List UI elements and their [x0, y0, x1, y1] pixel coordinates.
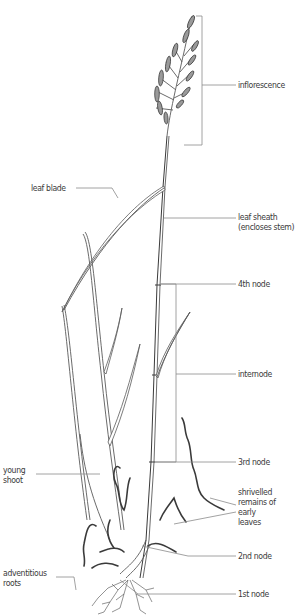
- label-internode: internode: [238, 369, 272, 379]
- label-leaf-blade: leaf blade: [31, 183, 66, 193]
- label-1st-node: 1st node: [238, 589, 269, 599]
- label-4th-node: 4th node: [238, 279, 270, 289]
- young-shoot-illustration: [62, 232, 140, 540]
- grass-anatomy-diagram: inflorescence leaf blade leaf sheath (en…: [0, 0, 305, 616]
- label-leaf-sheath: leaf sheath (encloses stem): [238, 212, 294, 232]
- label-young-shoot: young shoot: [3, 465, 25, 485]
- leaf-blade-illustration: [62, 186, 165, 312]
- label-shrivelled-remains: shrivelled remains of early leaves: [238, 487, 276, 527]
- inflorescence-illustration: [155, 15, 200, 136]
- label-3rd-node: 3rd node: [238, 457, 270, 467]
- label-inflorescence: inflorescence: [238, 80, 285, 90]
- mid-leaf-illustration: [156, 312, 190, 378]
- shrivelled-leaves-illustration: [83, 418, 224, 568]
- label-adventitious-roots: adventitious roots: [3, 568, 47, 588]
- label-2nd-node: 2nd node: [238, 551, 272, 561]
